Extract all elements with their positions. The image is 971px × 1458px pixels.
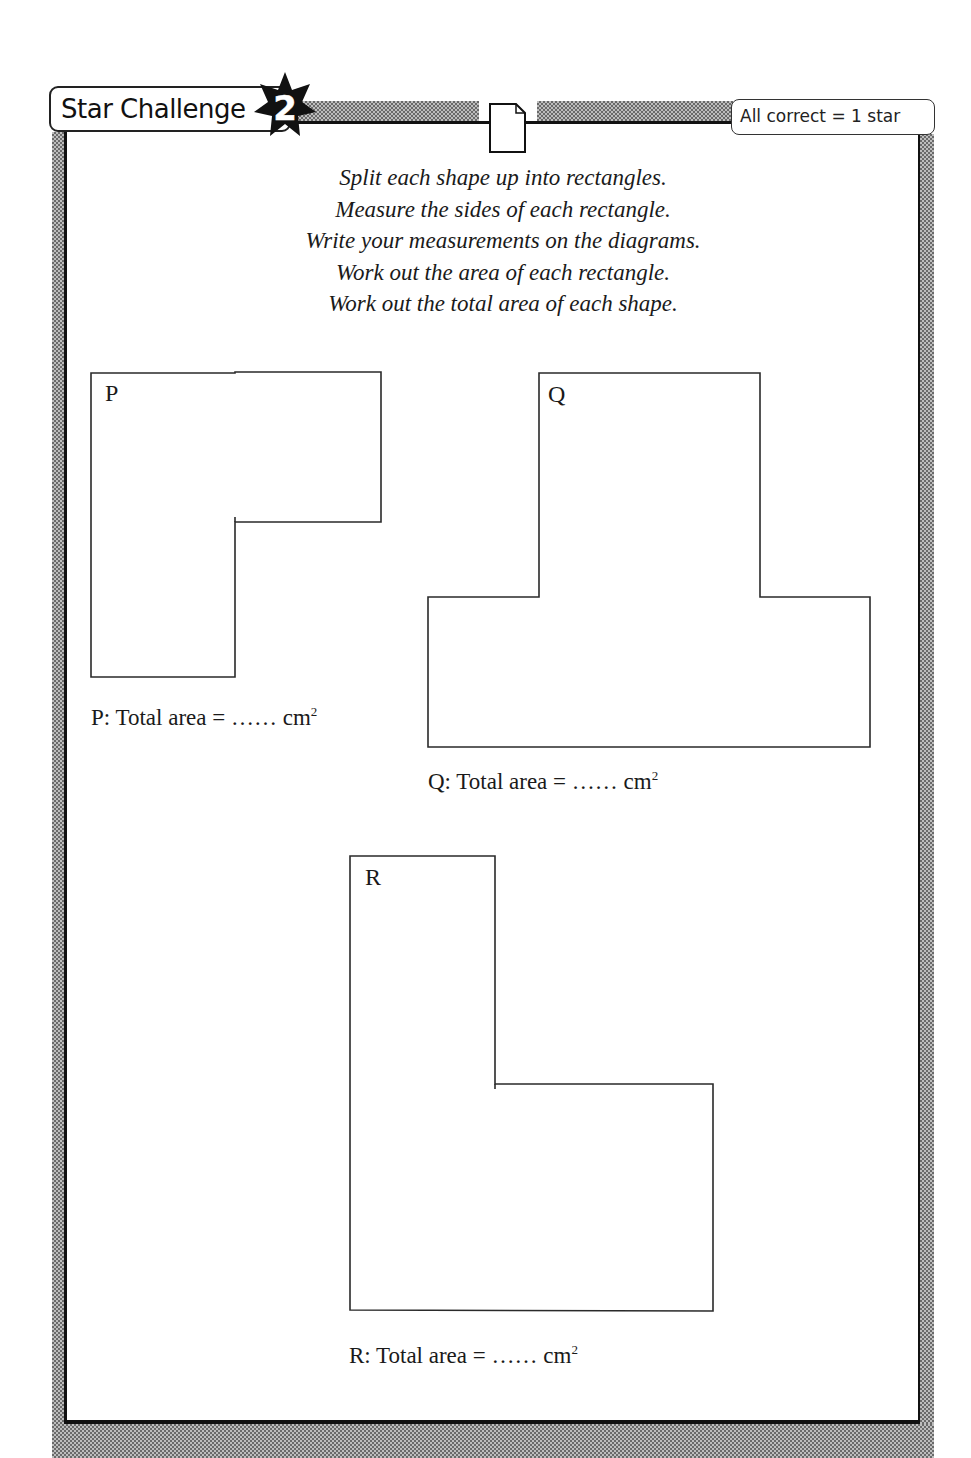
answer-unit: cm bbox=[283, 705, 311, 730]
shape-r-label: R bbox=[365, 864, 381, 891]
shape-q-answer: Q: Total area = …… cm2 bbox=[428, 768, 658, 795]
shape-q-label: Q bbox=[548, 381, 565, 408]
answer-blank[interactable]: …… bbox=[492, 1343, 538, 1368]
answer-unit: cm bbox=[543, 1343, 571, 1368]
answer-blank[interactable]: …… bbox=[572, 769, 618, 794]
answer-unit: cm bbox=[624, 769, 652, 794]
answer-blank[interactable]: …… bbox=[231, 705, 277, 730]
shape-p-answer: P: Total area = …… cm2 bbox=[91, 704, 317, 731]
shape-q-outline bbox=[428, 373, 870, 747]
answer-exponent: 2 bbox=[571, 1342, 578, 1357]
shape-r-outline bbox=[350, 856, 713, 1311]
answer-prefix: Q: Total area = bbox=[428, 769, 572, 794]
answer-exponent: 2 bbox=[652, 768, 659, 783]
answer-exponent: 2 bbox=[311, 704, 318, 719]
shape-p-label: P bbox=[105, 380, 118, 407]
shape-r-answer: R: Total area = …… cm2 bbox=[349, 1342, 578, 1369]
answer-prefix: R: Total area = bbox=[349, 1343, 492, 1368]
answer-prefix: P: Total area = bbox=[91, 705, 231, 730]
shape-p-outline bbox=[91, 372, 381, 677]
